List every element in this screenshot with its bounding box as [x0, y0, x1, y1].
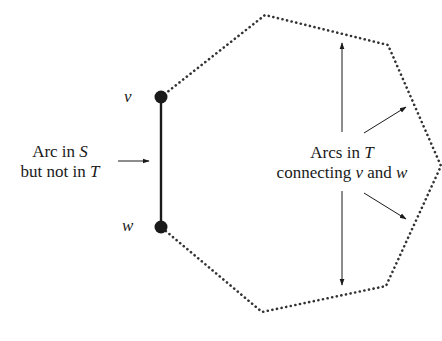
caption-line-1: Arc in S [10, 142, 110, 162]
caption-line-2: connecting v and w [250, 163, 434, 183]
var-v: v [355, 163, 363, 182]
caption-line-2: but not in T [10, 162, 110, 182]
arrow-upper-right [364, 107, 406, 133]
node-w [155, 221, 168, 234]
node-label-v: v [124, 87, 132, 107]
caption-text: and [363, 163, 396, 182]
node-label-w: w [122, 216, 133, 236]
var-w: w [396, 163, 407, 182]
caption-arcs-in-T: Arcs in T connecting v and w [250, 143, 434, 183]
var-S: S [79, 142, 88, 161]
node-v [155, 91, 168, 104]
caption-line-1: Arcs in T [250, 143, 434, 163]
caption-text: but not in [21, 162, 90, 181]
caption-arc-in-S: Arc in S but not in T [10, 142, 110, 182]
caption-text: connecting [277, 163, 356, 182]
var-T: T [364, 143, 373, 162]
caption-text: Arcs in [310, 143, 364, 162]
caption-text: Arc in [32, 142, 79, 161]
var-T: T [90, 162, 99, 181]
arrow-lower-right [364, 193, 406, 219]
